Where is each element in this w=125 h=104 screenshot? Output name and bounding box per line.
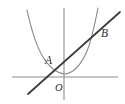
geometry-figure: A O B bbox=[0, 0, 125, 104]
label-origin: O bbox=[55, 82, 63, 93]
label-point-a: A bbox=[44, 54, 53, 66]
secant-line bbox=[28, 12, 120, 94]
label-point-b: B bbox=[101, 27, 108, 39]
figure-canvas: A O B bbox=[0, 0, 125, 104]
